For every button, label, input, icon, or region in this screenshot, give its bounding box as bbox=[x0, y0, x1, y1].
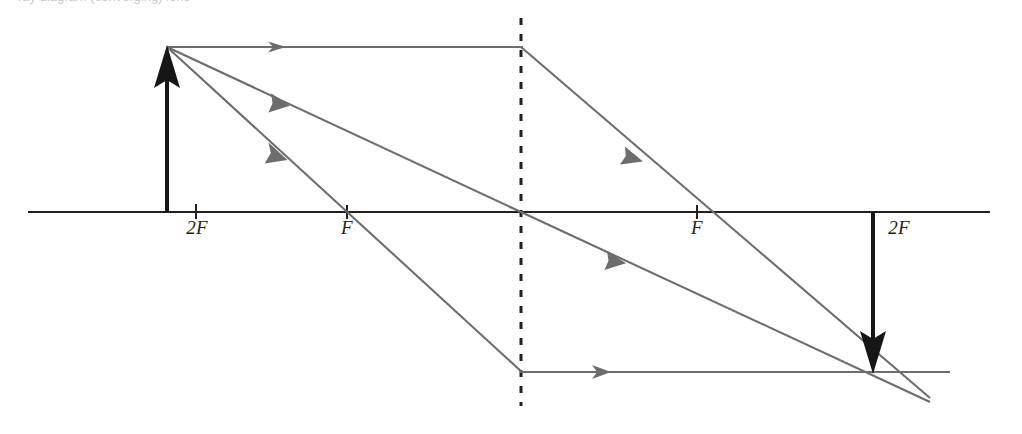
ray-diagram-canvas bbox=[0, 0, 1022, 434]
ray-center-incident bbox=[167, 47, 523, 213]
ray-focal-incident bbox=[167, 47, 523, 373]
ray-diagram-figure: ray diagram (converging) lens bbox=[0, 0, 1022, 434]
ray-center-refracted bbox=[521, 212, 930, 402]
label-object-F: F bbox=[341, 217, 353, 239]
label-image-F: F bbox=[691, 217, 703, 239]
image-arrow bbox=[860, 212, 886, 374]
ray-center bbox=[167, 47, 930, 402]
label-object-2F: 2F bbox=[186, 217, 208, 239]
ray-parallel bbox=[167, 41, 930, 398]
label-image-2F: 2F bbox=[888, 217, 910, 239]
object-arrow bbox=[154, 45, 180, 212]
